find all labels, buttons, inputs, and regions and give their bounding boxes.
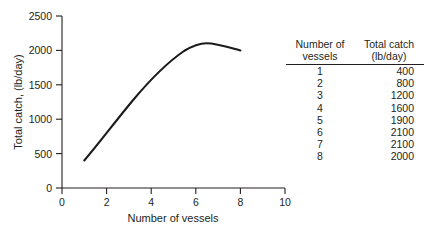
- table-header-row: Number of vessels Total catch (lb/day): [286, 38, 424, 65]
- x-axis-tick-labels: 0 2 4 6 8 10: [59, 196, 291, 208]
- cell-catch: 2000: [354, 150, 424, 162]
- y-axis-tick-labels: 2500 2000 1500 1000 500 0: [29, 10, 53, 194]
- cell-vessels: 6: [286, 126, 354, 138]
- x-axis-title: Number of vessels: [127, 212, 219, 224]
- column-header-catch-line2: (lb/day): [356, 50, 422, 62]
- table-row: 62100: [286, 126, 424, 138]
- cell-vessels: 4: [286, 102, 354, 114]
- table-row: 2800: [286, 77, 424, 89]
- cell-catch: 2100: [354, 126, 424, 138]
- cell-vessels: 5: [286, 114, 354, 126]
- x-tick-label: 0: [59, 196, 65, 208]
- figure-line-chart-with-data-table: 2500 2000 1500 1000 500 0 0 2 4: [0, 0, 432, 239]
- table-row: 82000: [286, 150, 424, 162]
- y-tick-label: 2500: [29, 10, 53, 22]
- cell-vessels: 8: [286, 150, 354, 162]
- y-axis-title: Total catch, (lb/day): [12, 54, 24, 149]
- cell-catch: 800: [354, 77, 424, 89]
- column-header-catch-line1: Total catch: [356, 38, 422, 50]
- table-header: Number of vessels Total catch (lb/day): [286, 38, 424, 65]
- column-header-catch: Total catch (lb/day): [354, 38, 424, 65]
- line-chart: 2500 2000 1500 1000 500 0 0 2 4: [0, 0, 300, 239]
- y-tick-label: 2000: [29, 44, 53, 56]
- table-row: 41600: [286, 102, 424, 114]
- column-header-vessels: Number of vessels: [286, 38, 354, 65]
- cell-vessels: 7: [286, 138, 354, 150]
- y-tick-label: 500: [34, 148, 52, 160]
- table-row: 31200: [286, 89, 424, 101]
- cell-vessels: 3: [286, 89, 354, 101]
- column-header-vessels-line1: Number of: [288, 38, 352, 50]
- cell-vessels: 1: [286, 65, 354, 78]
- y-tick-label: 1000: [29, 113, 53, 125]
- catch-curve: [84, 43, 240, 160]
- cell-catch: 400: [354, 65, 424, 78]
- x-axis-ticks: [62, 188, 285, 194]
- x-tick-label: 10: [279, 196, 291, 208]
- x-tick-label: 2: [104, 196, 110, 208]
- x-tick-label: 8: [237, 196, 243, 208]
- chart-panel: 2500 2000 1500 1000 500 0 0 2 4: [0, 0, 300, 239]
- y-tick-label: 1500: [29, 79, 53, 91]
- table: Number of vessels Total catch (lb/day) 1…: [286, 38, 424, 163]
- cell-catch: 1200: [354, 89, 424, 101]
- table-row: 72100: [286, 138, 424, 150]
- y-tick-label: 0: [46, 182, 52, 194]
- x-tick-label: 4: [148, 196, 154, 208]
- x-tick-label: 6: [193, 196, 199, 208]
- table-row: 51900: [286, 114, 424, 126]
- catch-data-table: Number of vessels Total catch (lb/day) 1…: [286, 38, 428, 163]
- column-header-vessels-line2: vessels: [288, 50, 352, 62]
- y-axis-ticks: [56, 16, 62, 188]
- table-row: 1400: [286, 65, 424, 78]
- cell-vessels: 2: [286, 77, 354, 89]
- cell-catch: 1600: [354, 102, 424, 114]
- cell-catch: 2100: [354, 138, 424, 150]
- table-body: 14002800312004160051900621007210082000: [286, 65, 424, 163]
- cell-catch: 1900: [354, 114, 424, 126]
